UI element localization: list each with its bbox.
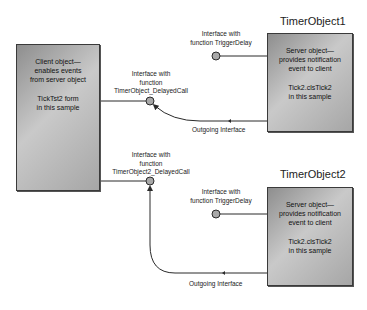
client-desc-line: in this sample	[17, 103, 99, 112]
client-object-box: Client object— enables events from serve…	[16, 44, 100, 191]
server-object-box-2: Server object— provides notification eve…	[267, 187, 353, 286]
client-desc-line: Client object—	[17, 57, 99, 66]
server-title-1: TimerObject1	[280, 15, 346, 27]
trigger-interface-label-1: Interface with function TriggerDelay	[186, 30, 256, 47]
server-object-box-1: Server object— provides notification eve…	[267, 33, 353, 132]
interface-circle-icon	[212, 52, 220, 60]
client-interface-label-1: Interface with function TimerObject_Dela…	[112, 70, 190, 96]
interface-circle-icon	[146, 177, 154, 185]
trigger-interface-label-2: Interface with function TriggerDelay	[186, 188, 256, 205]
client-desc-line: TickTst2 form	[17, 94, 99, 103]
outgoing-interface-label-2: Outgoing Interface	[189, 280, 242, 289]
server-title-2: TimerObject2	[280, 168, 346, 180]
interface-circle-icon	[146, 97, 154, 105]
client-desc-line: enables events	[17, 66, 99, 75]
client-interface-label-2: Interface with function TimerObject2_Del…	[110, 151, 192, 177]
client-desc-line: from server object	[17, 75, 99, 84]
interface-circle-icon	[212, 210, 220, 218]
outgoing-interface-label-1: Outgoing Interface	[192, 126, 245, 135]
